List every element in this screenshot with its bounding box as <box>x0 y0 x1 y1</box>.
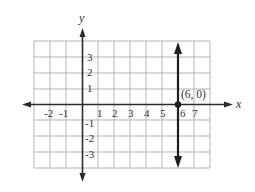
x-tick-label: 3 <box>128 107 134 119</box>
x-axis-left-arrow-icon <box>22 102 31 108</box>
point-label: (6, 0) <box>181 88 206 101</box>
x-tick-label: -2 <box>44 107 53 119</box>
x-tick-label: 2 <box>112 107 118 119</box>
y-tick-labels: 3 2 1 -1 -2 -3 <box>85 51 95 160</box>
x-tick-label: 1 <box>97 107 103 119</box>
y-axis-up-arrow-icon <box>80 28 86 37</box>
y-tick-label: -1 <box>85 117 94 129</box>
y-tick-label: -2 <box>85 132 94 144</box>
y-axis-label: y <box>78 11 85 25</box>
y-tick-label: 2 <box>87 66 93 78</box>
y-tick-label: 3 <box>87 51 93 63</box>
y-tick-label: -3 <box>85 148 95 160</box>
point-marker <box>175 101 181 107</box>
y-axis-down-arrow-icon <box>80 173 86 182</box>
x-tick-label: 5 <box>160 107 166 119</box>
x-tick-label: -1 <box>59 107 68 119</box>
line-down-arrow-icon <box>174 156 182 168</box>
x-axis-right-arrow-icon <box>224 102 233 108</box>
line-up-arrow-icon <box>174 42 182 54</box>
coordinate-graph: x y -2 -1 1 2 3 4 5 6 7 3 2 1 -1 -2 -3 (… <box>0 0 255 192</box>
x-axis-label: x <box>235 97 242 111</box>
x-tick-label: 6 <box>180 107 186 119</box>
x-tick-labels: -2 -1 1 2 3 4 5 6 7 <box>44 107 198 119</box>
x-tick-label: 4 <box>144 107 150 119</box>
x-tick-label: 7 <box>192 107 198 119</box>
y-tick-label: 1 <box>87 82 93 94</box>
